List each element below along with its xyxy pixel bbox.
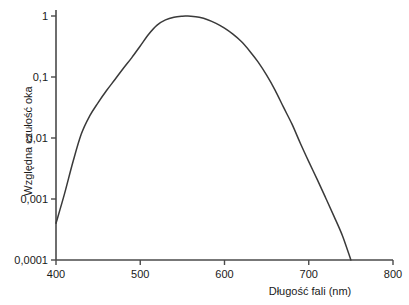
x-tick-label: 800 (384, 269, 402, 280)
chart-figure: 10,10,010,0010,0001 400500600700800 Wzgl… (0, 0, 409, 305)
chart-plot-area (0, 0, 409, 305)
y-axis-title: Względna czułość oka (22, 51, 34, 231)
data-series-line (56, 16, 351, 260)
y-tick-label: 1 (42, 11, 48, 22)
y-tick-label: 0,1 (33, 72, 48, 83)
x-axis-title: Długość fali (nm) (225, 285, 395, 297)
x-tick-label: 600 (215, 269, 233, 280)
x-tick-label: 700 (300, 269, 318, 280)
x-tick-label: 400 (47, 269, 65, 280)
x-tick-label: 500 (131, 269, 149, 280)
y-tick-label: 0,0001 (14, 255, 48, 266)
